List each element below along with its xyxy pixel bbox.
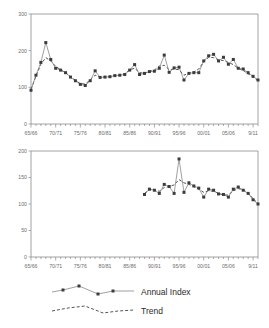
- data-point-marker: [232, 58, 235, 61]
- legend-entry-trend: Trend: [52, 306, 163, 316]
- data-point-marker: [178, 157, 181, 160]
- data-point-marker: [108, 75, 111, 78]
- data-point-marker: [242, 189, 245, 192]
- data-point-marker: [54, 67, 57, 70]
- bottom-chart-svg: 05010015020065/6670/7175/7680/8185/8690/…: [0, 145, 269, 278]
- data-point-marker: [34, 74, 37, 77]
- data-point-marker: [158, 67, 161, 70]
- data-point-marker: [182, 79, 185, 82]
- data-point-marker: [192, 71, 195, 74]
- x-tick-label: 9/11: [248, 263, 258, 269]
- x-tick-label: 70/71: [49, 263, 62, 269]
- x-tick-label: 65/66: [25, 263, 38, 269]
- data-point-marker: [237, 67, 240, 70]
- x-tick-label: 85/86: [123, 263, 136, 269]
- data-point-marker: [257, 203, 260, 206]
- data-point-marker: [138, 73, 141, 76]
- legend-marker: [62, 289, 65, 292]
- x-tick-label: 05/06: [222, 263, 235, 269]
- data-point-marker: [133, 63, 136, 66]
- legend-entry-annual-index: Annual Index: [52, 285, 191, 298]
- y-tick-label: 0: [24, 121, 27, 127]
- data-point-marker: [123, 73, 126, 76]
- x-tick-label: 9/11: [248, 130, 258, 136]
- legend-marker: [112, 290, 115, 293]
- y-tick-label: 100: [18, 201, 27, 207]
- data-point-marker: [39, 61, 42, 64]
- y-tick-label: 150: [18, 174, 27, 180]
- y-tick-label: 300: [18, 11, 27, 17]
- x-tick-label: 75/76: [74, 130, 87, 136]
- data-point-marker: [252, 198, 255, 201]
- legend-trend-line: [52, 306, 134, 313]
- data-point-marker: [207, 188, 210, 191]
- data-point-marker: [113, 74, 116, 77]
- data-point-marker: [212, 189, 215, 192]
- data-point-marker: [168, 185, 171, 188]
- x-tick-label: 80/81: [99, 263, 112, 269]
- annual-index-series-line: [145, 159, 259, 204]
- data-point-marker: [163, 183, 166, 186]
- data-point-marker: [89, 79, 92, 82]
- x-tick-label: 05/06: [222, 130, 235, 136]
- y-tick-label: 100: [18, 84, 27, 90]
- data-point-marker: [252, 75, 255, 78]
- data-point-marker: [197, 187, 200, 190]
- data-point-marker: [79, 83, 82, 86]
- data-point-marker: [143, 193, 146, 196]
- x-tick-label: 00/01: [197, 130, 210, 136]
- data-point-marker: [44, 41, 47, 44]
- data-point-marker: [222, 193, 225, 196]
- data-point-marker: [74, 79, 77, 82]
- data-point-marker: [207, 54, 210, 57]
- data-point-marker: [227, 63, 230, 66]
- data-point-marker: [197, 71, 200, 74]
- legend-marker: [97, 293, 100, 296]
- data-point-marker: [163, 54, 166, 57]
- data-point-marker: [227, 196, 230, 199]
- data-point-marker: [247, 192, 250, 195]
- x-tick-label: 00/01: [197, 263, 210, 269]
- data-point-marker: [202, 59, 205, 62]
- plot-frame: [31, 14, 258, 124]
- data-point-marker: [247, 71, 250, 74]
- data-point-marker: [257, 79, 260, 82]
- data-point-marker: [212, 53, 215, 56]
- top-chart-panel: 010020030065/6670/7175/7680/8185/8690/91…: [0, 0, 269, 145]
- data-point-marker: [173, 192, 176, 195]
- data-point-marker: [187, 72, 190, 75]
- x-tick-label: 80/81: [99, 130, 112, 136]
- data-point-marker: [84, 84, 87, 87]
- legend-label-trend: Trend: [141, 306, 163, 316]
- y-tick-label: 0: [24, 254, 27, 260]
- x-tick-label: 95/96: [173, 263, 186, 269]
- y-tick-label: 200: [18, 148, 27, 154]
- plot-frame: [31, 151, 258, 257]
- data-point-marker: [94, 69, 97, 72]
- x-tick-label: 85/86: [123, 130, 136, 136]
- data-point-marker: [49, 58, 52, 61]
- bottom-chart-panel: 05010015020065/6670/7175/7680/8185/8690/…: [0, 145, 269, 278]
- legend-svg: Annual Index Trend: [0, 278, 269, 328]
- data-point-marker: [104, 76, 107, 79]
- top-chart-svg: 010020030065/6670/7175/7680/8185/8690/91…: [0, 0, 269, 145]
- data-point-marker: [182, 191, 185, 194]
- x-tick-label: 75/76: [74, 263, 87, 269]
- data-point-marker: [187, 181, 190, 184]
- data-point-marker: [217, 59, 220, 62]
- annual-index-series-line: [31, 43, 258, 91]
- data-point-marker: [59, 69, 62, 72]
- data-point-marker: [99, 76, 102, 79]
- data-point-marker: [173, 66, 176, 69]
- data-point-marker: [128, 69, 131, 72]
- data-point-marker: [118, 74, 121, 77]
- data-point-marker: [222, 56, 225, 59]
- legend-marker: [78, 285, 81, 288]
- x-tick-label: 95/96: [173, 130, 186, 136]
- x-tick-label: 65/66: [25, 130, 38, 136]
- data-point-marker: [148, 70, 151, 73]
- figure-container: 010020030065/6670/7175/7680/8185/8690/91…: [0, 0, 269, 328]
- data-point-marker: [178, 66, 181, 69]
- trend-series-line: [145, 180, 259, 204]
- data-point-marker: [30, 89, 33, 92]
